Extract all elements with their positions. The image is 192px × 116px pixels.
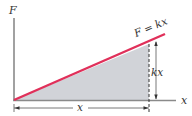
kx-arrow-bottom-icon [154,95,157,100]
x-dimension-label: x [77,101,83,113]
kx-arrow-top-icon [154,41,157,46]
x-axis-label: x [181,94,188,107]
x-arrow-right-icon [144,106,149,109]
y-axis-label: F [8,4,17,17]
x-arrow-left-icon [15,106,20,109]
force-displacement-diagram: F x F = kx kx x [0,0,192,116]
kx-dimension-label: kx [151,66,163,78]
